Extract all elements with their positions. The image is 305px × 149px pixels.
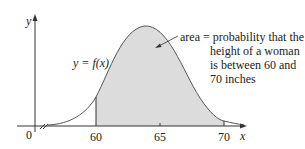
origin-label: 0 [26, 128, 32, 142]
annotation-line-1: area = probability that the [180, 30, 304, 44]
normal-curve-diagram: y x 0 60 65 70 y = f(x) area = probabili… [0, 0, 305, 149]
x-axis-label: x [239, 129, 246, 143]
annotation-line-2: height of a woman [210, 44, 300, 58]
annotation-line-4: 70 inches [210, 72, 256, 86]
y-axis-label: y [25, 14, 32, 28]
tick-label-60: 60 [90, 130, 102, 144]
tick-label-70: 70 [218, 130, 230, 144]
x-axis-arrow-icon [240, 124, 247, 129]
y-axis-arrow-icon [33, 14, 38, 21]
curve-label: y = f(x) [72, 56, 109, 70]
tick-label-65: 65 [154, 130, 166, 144]
annotation-line-3: is between 60 and [210, 58, 296, 72]
